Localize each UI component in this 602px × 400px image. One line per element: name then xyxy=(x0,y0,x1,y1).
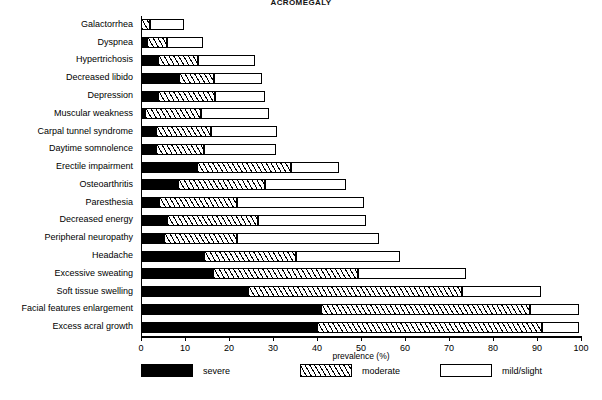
bar-segment-severe xyxy=(141,304,321,315)
bar-row xyxy=(141,144,581,155)
bar-segment-mild-slight xyxy=(167,37,203,48)
bar-segment-mild-slight xyxy=(237,233,378,244)
chart-legend: severemoderatemild/slight xyxy=(0,364,602,384)
bar-row xyxy=(141,162,581,173)
legend-label: mild/slight xyxy=(502,366,542,376)
bar-segment-severe xyxy=(141,197,159,208)
bar-row xyxy=(141,286,581,297)
x-axis-tick xyxy=(449,336,450,341)
bar-segment-severe xyxy=(141,233,164,244)
bar-segment-moderate xyxy=(158,55,198,66)
bar-segment-severe xyxy=(141,215,167,226)
x-axis-tick xyxy=(361,336,362,341)
bar-segment-severe xyxy=(141,126,156,137)
x-axis-tick xyxy=(405,336,406,341)
bar-segment-severe xyxy=(141,251,204,262)
bar-segment-moderate xyxy=(213,268,359,279)
category-label: Erectile impairment xyxy=(56,162,133,171)
bar-segment-severe xyxy=(141,162,197,173)
category-label: Osteoarthritis xyxy=(79,180,133,189)
bar-segment-mild-slight xyxy=(296,251,399,262)
category-label: Headache xyxy=(92,251,133,260)
category-label: Peripheral neuropathy xyxy=(44,233,133,242)
bar-segment-moderate xyxy=(197,162,291,173)
bar-segment-severe xyxy=(141,286,248,297)
bar-row xyxy=(141,91,581,102)
category-label: Galactorrhea xyxy=(81,20,133,29)
category-label: Carpal tunnel syndrome xyxy=(37,127,133,136)
category-label: Excessive sweating xyxy=(54,269,133,278)
bar-row xyxy=(141,37,581,48)
category-label: Paresthesia xyxy=(85,198,133,207)
category-label: Soft tissue swelling xyxy=(56,287,133,296)
bar-segment-moderate xyxy=(159,197,237,208)
bar-segment-mild-slight xyxy=(265,179,346,190)
legend-swatch-white-outline xyxy=(440,364,492,377)
bar-row xyxy=(141,268,581,279)
legend-swatch-solid-black xyxy=(141,364,193,377)
bar-segment-severe xyxy=(141,144,156,155)
chart-title: ACROMEGALY xyxy=(0,0,602,7)
bar-segment-moderate xyxy=(141,19,150,30)
category-label: Decreased libido xyxy=(66,73,133,82)
bar-segment-mild-slight xyxy=(530,304,578,315)
bar-row xyxy=(141,215,581,226)
bar-segment-moderate xyxy=(178,179,264,190)
bar-segment-moderate xyxy=(156,144,204,155)
x-axis-title: prevalence (%) xyxy=(141,351,581,361)
bar-row xyxy=(141,251,581,262)
category-label: Dyspnea xyxy=(97,38,133,47)
bar-segment-moderate xyxy=(317,322,542,333)
bar-row xyxy=(141,233,581,244)
bar-row xyxy=(141,55,581,66)
category-label: Depression xyxy=(87,91,133,100)
bar-segment-severe xyxy=(141,73,179,84)
bar-row xyxy=(141,304,581,315)
bar-segment-moderate xyxy=(145,108,200,119)
legend-swatch-hatched xyxy=(300,364,352,377)
bar-row xyxy=(141,108,581,119)
y-axis-category-labels: GalactorrheaDyspneaHypertrichosisDecreas… xyxy=(0,16,137,336)
x-axis-tick xyxy=(273,336,274,341)
bar-row xyxy=(141,322,581,333)
bar-row xyxy=(141,179,581,190)
x-axis-tick xyxy=(185,336,186,341)
x-axis-tick xyxy=(141,336,142,341)
category-label: Daytime somnolence xyxy=(49,144,133,153)
bar-segment-mild-slight xyxy=(542,322,579,333)
bar-segment-severe xyxy=(141,268,213,279)
bar-segment-mild-slight xyxy=(211,126,278,137)
x-axis-tick xyxy=(493,336,494,341)
bar-row xyxy=(141,197,581,208)
bar-segment-moderate xyxy=(204,251,296,262)
bar-segment-moderate xyxy=(248,286,462,297)
bar-segment-moderate xyxy=(156,126,210,137)
chart-figure: ACROMEGALY GalactorrheaDyspneaHypertrich… xyxy=(0,0,602,400)
bar-segment-mild-slight xyxy=(150,19,184,30)
bar-segment-moderate xyxy=(147,37,167,48)
bar-segment-mild-slight xyxy=(291,162,339,173)
category-label: Decreased energy xyxy=(59,215,133,224)
bar-segment-severe xyxy=(141,55,158,66)
bar-segment-moderate xyxy=(321,304,530,315)
bar-segment-moderate xyxy=(167,215,258,226)
x-axis-tick xyxy=(581,336,582,341)
bar-segment-moderate xyxy=(179,73,214,84)
x-axis-tick xyxy=(537,336,538,341)
x-axis-tick xyxy=(229,336,230,341)
legend-label: severe xyxy=(203,366,230,376)
bar-segment-mild-slight xyxy=(258,215,366,226)
bar-segment-mild-slight xyxy=(198,55,255,66)
bar-segment-mild-slight xyxy=(204,144,276,155)
bar-segment-severe xyxy=(141,179,178,190)
bar-segment-mild-slight xyxy=(358,268,465,279)
bar-segment-mild-slight xyxy=(462,286,542,297)
plot-area: 0102030405060708090100 xyxy=(141,16,581,336)
category-label: Muscular weakness xyxy=(54,109,133,118)
bar-segment-mild-slight xyxy=(214,73,262,84)
category-label: Facial features enlargement xyxy=(21,304,133,313)
bar-row xyxy=(141,126,581,137)
bar-segment-severe xyxy=(141,91,158,102)
bar-segment-mild-slight xyxy=(215,91,264,102)
bar-row xyxy=(141,19,581,30)
